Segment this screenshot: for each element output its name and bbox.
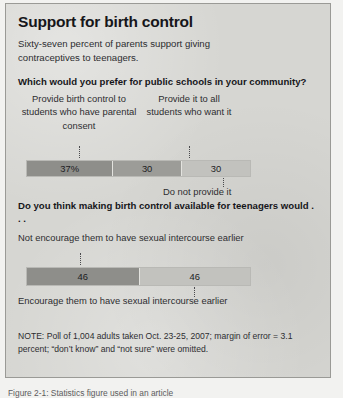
chart-1-label-provide-with-consent: Provide birth control to students who ha… [20, 92, 138, 132]
chart-1-stacked-bar: 37% 30 30 [26, 160, 251, 177]
scanned-page-background: Support for birth control Sixty-seven pe… [0, 0, 343, 398]
question-2-heading: Do you think making birth control availa… [18, 199, 318, 225]
chart-2-segment-encourage: 46 [139, 268, 251, 285]
chart-1-segment-provide-with-consent: 37% [27, 161, 112, 176]
source-note: NOTE: Poll of 1,004 adults taken Oct. 23… [18, 330, 318, 356]
chart-1-callouts: Provide birth control to students who ha… [18, 92, 318, 158]
chart-1-leader-segment-2 [189, 146, 190, 158]
page-title: Support for birth control [18, 14, 318, 30]
chart-2: Not encourage them to have sexual interc… [18, 231, 318, 323]
chart-2-label-encourage: Encourage them to have sexual intercours… [18, 295, 228, 306]
figure-caption: Figure 2-1: Statistics figure used in an… [8, 388, 338, 398]
chart-1-label-do-not-provide: Do not provide it [163, 186, 231, 197]
subtitle-text: Sixty-seven percent of parents support g… [18, 37, 268, 65]
chart-1-segment-do-not-provide: 30 [181, 161, 250, 176]
chart-2-stacked-bar: 46 46 [26, 267, 251, 286]
chart-1-segment-provide-to-all: 30 [112, 161, 181, 176]
chart-2-leader-segment-1 [80, 253, 81, 265]
chart-2-label-not-encourage: Not encourage them to have sexual interc… [18, 231, 318, 244]
chart-1-label-provide-to-all: Provide it to all students who want it [146, 92, 232, 119]
infographic-panel: Support for birth control Sixty-seven pe… [5, 3, 331, 378]
chart-2-segment-not-encourage: 46 [27, 268, 139, 285]
chart-1-leader-segment-1 [79, 146, 80, 158]
chart-1: Provide birth control to students who ha… [18, 92, 318, 199]
question-1-heading: Which would you prefer for public school… [18, 75, 318, 88]
